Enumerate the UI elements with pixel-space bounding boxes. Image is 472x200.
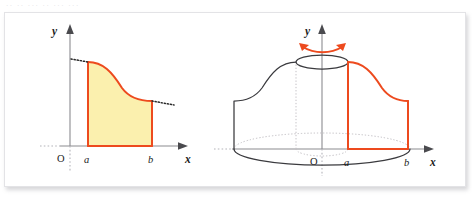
figure-frame xyxy=(4,12,466,187)
page-top-text-strip: ·· ·· ··· ·· ··· ··· xyxy=(0,0,472,11)
figure-page: ·· ·· ··· ·· ··· ··· y x xyxy=(0,0,472,200)
